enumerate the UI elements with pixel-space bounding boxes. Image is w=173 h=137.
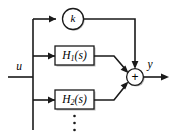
output-signal-group: y: [143, 58, 169, 81]
block-diagram-svg: u k H1(s: [0, 0, 173, 137]
h2-input-arrowhead: [48, 97, 55, 104]
h1-output-arrowhead: [121, 66, 129, 74]
gain-input-arrowhead: [49, 16, 56, 23]
ellipsis-dot-2: [73, 122, 76, 125]
transfer-function-h1: H1(s): [55, 46, 96, 67]
block-diagram-canvas: u k H1(s: [0, 0, 173, 137]
gain-k: k: [63, 9, 85, 31]
ellipsis-dot-1: [73, 115, 76, 118]
h2-output-arrowhead: [121, 82, 129, 90]
h2-output-wire: [94, 85, 126, 100]
output-label: y: [146, 58, 153, 71]
transfer-function-h2: H2(s): [55, 90, 96, 111]
h1-input-arrowhead: [48, 53, 55, 60]
input-label: u: [16, 60, 22, 72]
h1-output-wire: [94, 56, 126, 70]
h1-branch-group: [33, 53, 55, 60]
h1-output-route-group: [94, 56, 129, 73]
gain-branch-group: [33, 16, 56, 23]
summing-junction-sign: +: [131, 70, 138, 84]
continuation-ellipsis: [73, 115, 76, 132]
summing-junction: +: [127, 69, 145, 87]
h1-argument: (s): [75, 49, 87, 62]
gain-output-arrowhead: [132, 61, 139, 69]
input-signal-group: u: [8, 60, 33, 77]
output-arrowhead: [161, 73, 169, 80]
ellipsis-dot-3: [73, 129, 76, 132]
h2-argument: (s): [75, 93, 87, 106]
h2-branch-group: [33, 97, 55, 104]
h2-output-route-group: [94, 82, 129, 100]
